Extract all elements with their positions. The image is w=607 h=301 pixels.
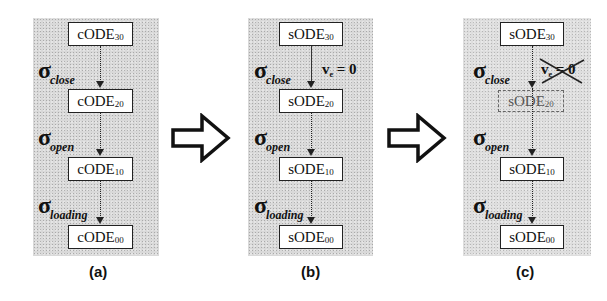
transition-edge [311, 181, 312, 218]
node-label: sODE [288, 26, 325, 43]
transition-label-open: σopen [473, 125, 509, 149]
sigma-subscript: open [266, 140, 290, 154]
node-sode00: sODE00 [500, 225, 564, 249]
node-subscript: 10 [115, 167, 124, 177]
node-code30: cODE30 [68, 22, 133, 46]
node-subscript: 10 [325, 167, 334, 177]
arrowhead-icon [528, 217, 536, 224]
node-label: cODE [77, 229, 115, 246]
hollow-right-arrow-icon [170, 113, 232, 163]
node-label: sODE [509, 229, 546, 246]
node-label: cODE [77, 93, 115, 110]
arrowhead-icon [96, 81, 104, 88]
transition-edge [532, 46, 533, 82]
transition-edge [532, 181, 533, 218]
arrowhead-icon [96, 217, 104, 224]
arrowhead-icon [307, 149, 315, 156]
caption-b: (b) [301, 263, 320, 280]
sigma-subscript: close [50, 73, 75, 87]
arrowhead-icon [528, 149, 536, 156]
node-label: cODE [77, 161, 115, 178]
arrowhead-icon [307, 217, 315, 224]
transition-label-close: σclose [473, 58, 510, 82]
hollow-right-arrow-icon [386, 113, 448, 163]
node-label: sODE [288, 93, 325, 110]
sigma-subscript: loading [266, 208, 303, 222]
node-subscript: 20 [545, 99, 554, 109]
transition-label-loading: σloading [254, 193, 303, 217]
condition-variable: v [322, 61, 330, 77]
node-subscript: 30 [325, 32, 334, 42]
cross-out-icon [538, 56, 586, 86]
transition-label-loading: σloading [38, 193, 87, 217]
node-label: cODE [77, 26, 115, 43]
node-sode20-removed: sODE20 [498, 90, 564, 112]
node-subscript: 30 [115, 32, 124, 42]
transition-label-open: σopen [254, 125, 290, 149]
transition-label-close: σclose [38, 58, 75, 82]
node-label: sODE [288, 161, 325, 178]
sigma-subscript: close [266, 73, 291, 87]
node-code10: cODE10 [68, 157, 133, 181]
node-sode30: sODE30 [279, 22, 343, 46]
sigma-subscript: close [485, 73, 510, 87]
node-subscript: 00 [546, 235, 555, 245]
node-label: sODE [288, 229, 325, 246]
node-code00: cODE00 [68, 225, 133, 249]
node-label: sODE [508, 93, 545, 110]
node-sode20: sODE20 [279, 89, 343, 113]
caption-c: (c) [516, 263, 534, 280]
node-label: sODE [509, 26, 546, 43]
node-subscript: 00 [115, 235, 124, 245]
node-subscript: 20 [325, 99, 334, 109]
node-label: sODE [509, 161, 546, 178]
node-sode10: sODE10 [500, 157, 564, 181]
sigma-subscript: loading [485, 208, 522, 222]
sigma-subscript: open [485, 140, 509, 154]
sigma-subscript: open [50, 140, 74, 154]
transition-edge [100, 46, 101, 82]
node-sode00: sODE00 [279, 225, 343, 249]
node-subscript: 20 [115, 99, 124, 109]
sigma-subscript: loading [50, 208, 87, 222]
arrowhead-icon [307, 81, 315, 88]
node-subscript: 10 [546, 167, 555, 177]
condition-subscript: e [330, 70, 334, 79]
transition-label-loading: σloading [473, 193, 522, 217]
transition-edge [532, 88, 533, 150]
arrowhead-icon [528, 81, 536, 88]
arrowhead-icon [96, 149, 104, 156]
transition-edge [100, 113, 101, 150]
transition-edge [311, 46, 312, 82]
node-sode10: sODE10 [279, 157, 343, 181]
node-sode30: sODE30 [500, 22, 564, 46]
node-subscript: 00 [325, 235, 334, 245]
node-code20: cODE20 [68, 89, 133, 113]
condition-value: = 0 [333, 61, 357, 77]
transition-edge [100, 181, 101, 218]
transition-edge [311, 113, 312, 150]
node-subscript: 30 [546, 32, 555, 42]
transition-label-open: σopen [38, 125, 74, 149]
transition-label-close: σclose [254, 58, 291, 82]
caption-a: (a) [89, 263, 107, 280]
condition-velocity-zero: ve = 0 [322, 61, 357, 78]
